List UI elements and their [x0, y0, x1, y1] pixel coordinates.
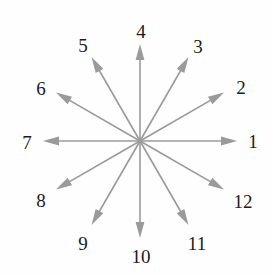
arrow-spoke-6	[56, 93, 140, 142]
arrow-head	[92, 57, 104, 73]
spoke-label-9: 9	[78, 234, 88, 253]
arrow-head	[208, 178, 224, 190]
arrow-spoke-7	[43, 137, 140, 146]
arrow-spoke-1	[140, 137, 237, 146]
arrow-head	[136, 44, 145, 60]
arrow-shaft	[62, 96, 140, 141]
arrow-head	[56, 93, 72, 105]
arrow-spoke-2	[140, 93, 224, 142]
arrow-spoke-12	[140, 141, 224, 190]
arrow-head	[177, 209, 189, 225]
arrow-head	[92, 209, 104, 225]
direction-diagram: 123456789101112	[0, 0, 274, 275]
spoke-label-11: 11	[188, 234, 206, 253]
arrow-head	[221, 137, 237, 146]
arrow-spoke-5	[92, 57, 141, 141]
arrow-shaft	[95, 141, 140, 219]
spoke-label-5: 5	[78, 36, 88, 55]
arrow-head	[208, 93, 224, 105]
spoke-label-1: 1	[248, 132, 258, 151]
spoke-label-8: 8	[36, 191, 46, 210]
arrow-spoke-4	[136, 44, 145, 141]
arrow-shaft	[140, 141, 218, 186]
spoke-label-2: 2	[236, 78, 246, 97]
arrow-shaft	[140, 96, 218, 141]
arrow-spoke-11	[140, 141, 189, 225]
arrow-head	[43, 137, 59, 146]
arrow-shaft	[140, 141, 185, 219]
spoke-label-12: 12	[234, 192, 253, 211]
arrow-spoke-10	[136, 141, 145, 238]
spoke-label-7: 7	[22, 133, 32, 152]
arrow-spoke-3	[140, 57, 189, 141]
arrow-head	[136, 222, 145, 238]
arrow-shaft	[95, 63, 140, 141]
arrow-spoke-9	[92, 141, 141, 225]
spoke-label-10: 10	[132, 247, 151, 266]
spoke-label-6: 6	[36, 79, 46, 98]
spoke-label-4: 4	[136, 22, 146, 41]
arrow-shaft	[62, 141, 140, 186]
arrow-head	[56, 178, 72, 190]
arrow-head	[177, 57, 189, 73]
arrow-spoke-8	[56, 141, 140, 190]
spoke-label-3: 3	[193, 37, 203, 56]
arrow-shaft	[140, 63, 185, 141]
